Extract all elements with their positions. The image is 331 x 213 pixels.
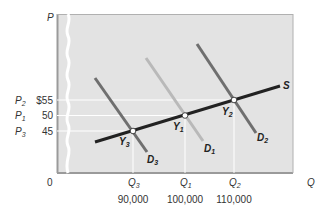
svg-text:110,000: 110,000: [216, 194, 252, 205]
y-tick-p2: P2 $55: [15, 95, 53, 107]
equilibrium-point-y2: [231, 97, 237, 103]
svg-text:P3: P3: [15, 126, 26, 138]
svg-text:P2: P2: [15, 95, 26, 107]
svg-text:Q2: Q2: [229, 177, 241, 189]
equilibrium-point-y3: [130, 128, 136, 134]
svg-text:Q1: Q1: [180, 177, 192, 189]
svg-text:45: 45: [42, 126, 54, 137]
svg-text:P1: P1: [15, 110, 26, 122]
svg-text:Q3: Q3: [128, 177, 140, 189]
y-tick-p1: P1 50: [15, 110, 53, 122]
x-tick-q1: Q1 100,000: [167, 177, 204, 205]
x-tick-q3: Q3 90,000: [118, 177, 149, 205]
y-axis-title: P: [47, 12, 54, 23]
svg-text:$55: $55: [36, 95, 53, 106]
svg-text:100,000: 100,000: [167, 194, 204, 205]
svg-text:50: 50: [42, 110, 54, 121]
supply-demand-chart: P Q 0 P2 $55 P1 50 P3 45 Q3 90,000 Q1 10…: [0, 0, 331, 213]
y-tick-p3: P3 45: [15, 126, 53, 138]
equilibrium-point-y1: [182, 113, 188, 119]
origin-label: 0: [47, 177, 53, 188]
x-tick-q2: Q2 110,000: [216, 177, 252, 205]
x-axis-title: Q: [307, 177, 315, 188]
svg-text:90,000: 90,000: [118, 194, 149, 205]
supply-label: S: [283, 80, 290, 91]
